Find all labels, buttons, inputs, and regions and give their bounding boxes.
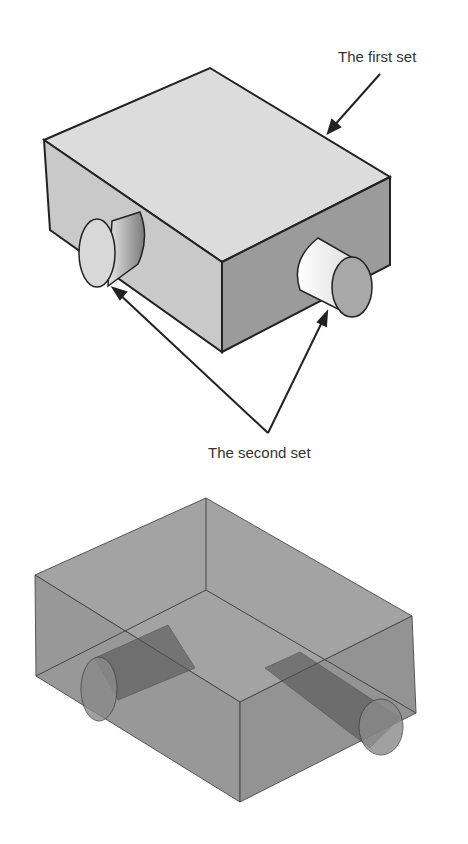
transparent-box-figure <box>0 480 468 844</box>
opaque-box-figure: The first set The second set <box>0 0 468 480</box>
transparent-box-drawing <box>0 480 468 844</box>
opaque-box-drawing <box>0 0 468 480</box>
second-set-label: The second set <box>208 444 311 461</box>
first-set-label: The first set <box>338 48 416 65</box>
